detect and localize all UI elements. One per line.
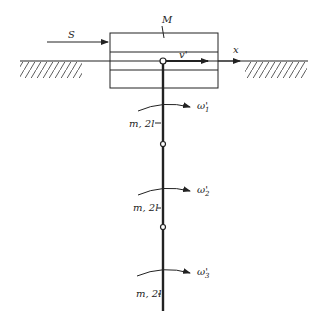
- segment3-label: m, 2l: [136, 288, 161, 299]
- diagram-canvas: M S v' x ω' 1 ω' 2 ω' 3 m, 2l m, 2l m, 2…: [0, 0, 323, 322]
- joint-1-2: [161, 142, 166, 147]
- joint-2-3: [161, 225, 166, 230]
- omega2-subscript: 2: [204, 190, 210, 198]
- triple-pendulum-on-cart-diagram: M S v' x ω' 1 ω' 2 ω' 3 m, 2l m, 2l m, 2…: [0, 0, 323, 322]
- pivot-joint: [160, 58, 166, 64]
- omega1-subscript: 1: [205, 106, 209, 114]
- segment1-label: m, 2l: [129, 118, 154, 129]
- segment2-label: m, 2l: [133, 202, 158, 213]
- x-axis-label: x: [233, 44, 239, 55]
- mass-label: M: [161, 14, 173, 25]
- force-label: S: [68, 29, 75, 40]
- omega3-subscript: 3: [205, 272, 210, 280]
- velocity-label: v': [179, 49, 187, 60]
